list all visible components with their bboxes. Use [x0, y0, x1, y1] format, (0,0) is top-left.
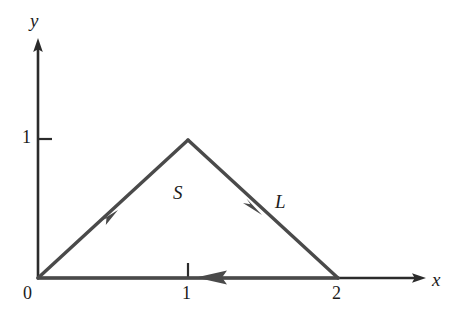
y-axis-tick-label-1: 1 — [22, 128, 31, 146]
figure-canvas: y x S L 1 0 1 2 — [0, 0, 457, 315]
curve-segment-left — [38, 140, 188, 278]
curve-label-l: L — [275, 192, 286, 211]
region-label-s: S — [173, 183, 183, 202]
y-axis-label: y — [30, 11, 38, 30]
x-axis-tick-label-1: 1 — [182, 284, 191, 302]
origin-label: 0 — [23, 284, 32, 302]
x-axis-label: x — [432, 270, 440, 289]
curve-L-group — [38, 140, 338, 285]
axes-group — [33, 38, 426, 283]
triangle-region-diagram — [0, 0, 457, 315]
x-axis-tick-label-2: 2 — [332, 284, 341, 302]
curve-segment-right — [188, 140, 338, 278]
